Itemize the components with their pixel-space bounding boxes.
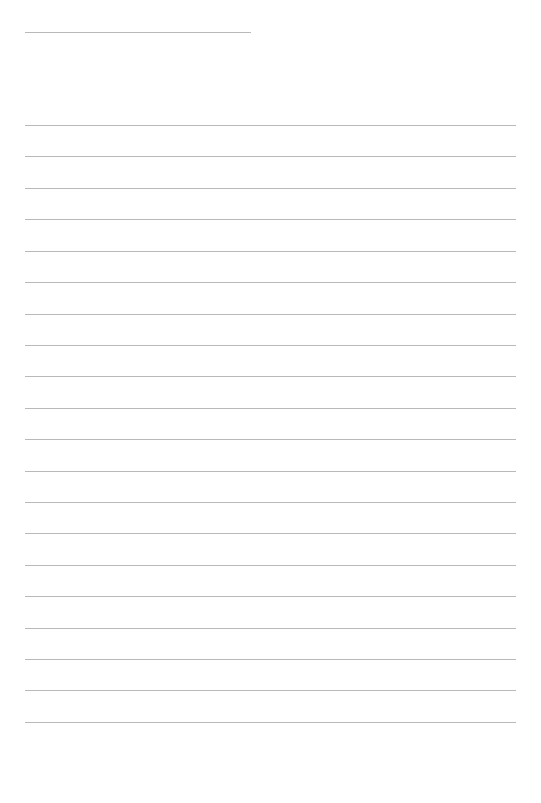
body-write-zone[interactable] — [25, 417, 516, 438]
body-rule — [25, 345, 516, 346]
body-rule — [25, 376, 516, 377]
body-write-zone[interactable] — [25, 260, 516, 281]
body-write-zone[interactable] — [25, 134, 516, 155]
body-write-zone[interactable] — [25, 292, 516, 313]
body-rule — [25, 690, 516, 691]
body-rule — [25, 408, 516, 409]
body-write-zone[interactable] — [25, 229, 516, 250]
body-write-zone[interactable] — [25, 511, 516, 532]
body-write-zone[interactable] — [25, 103, 516, 124]
body-rule — [25, 156, 516, 157]
body-write-zone[interactable] — [25, 354, 516, 375]
body-write-zone[interactable] — [25, 449, 516, 470]
body-rule — [25, 471, 516, 472]
body-rule — [25, 188, 516, 189]
body-write-zone[interactable] — [25, 480, 516, 501]
title-write-zone[interactable] — [25, 12, 251, 31]
body-rule — [25, 722, 516, 723]
body-write-zone[interactable] — [25, 574, 516, 595]
body-rule — [25, 251, 516, 252]
body-rule — [25, 439, 516, 440]
body-write-zone[interactable] — [25, 166, 516, 187]
body-write-zone[interactable] — [25, 323, 516, 344]
body-write-zone[interactable] — [25, 606, 516, 627]
body-write-zone[interactable] — [25, 197, 516, 218]
body-rule — [25, 596, 516, 597]
body-rule — [25, 125, 516, 126]
body-rule — [25, 565, 516, 566]
body-write-zone[interactable] — [25, 543, 516, 564]
body-write-zone[interactable] — [25, 386, 516, 407]
body-rule — [25, 314, 516, 315]
body-write-zone[interactable] — [25, 700, 516, 721]
lined-paper-page — [0, 0, 541, 803]
body-write-zone[interactable] — [25, 637, 516, 658]
body-rule — [25, 628, 516, 629]
body-rule — [25, 533, 516, 534]
body-rule — [25, 282, 516, 283]
body-rule — [25, 502, 516, 503]
body-rule — [25, 219, 516, 220]
body-rule — [25, 659, 516, 660]
title-rule — [25, 32, 251, 33]
body-write-zone[interactable] — [25, 668, 516, 689]
